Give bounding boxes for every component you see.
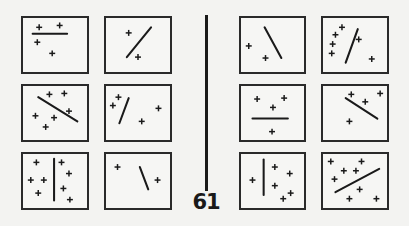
plus-icon: [156, 105, 162, 111]
line-segment: [38, 97, 77, 121]
plus-icon: [269, 129, 275, 135]
plus-icon: [339, 24, 345, 30]
plus-icon: [288, 190, 294, 196]
plus-icon: [328, 158, 334, 164]
plus-icon: [155, 177, 161, 183]
plus-icon: [60, 185, 66, 191]
plus-icon: [66, 171, 72, 177]
panel-drawing: [241, 86, 304, 140]
panel-drawing: [106, 86, 170, 140]
plus-icon: [329, 50, 335, 56]
plus-icon: [49, 50, 55, 56]
plus-icon: [353, 168, 359, 174]
plus-icon: [126, 30, 132, 36]
plus-icon: [34, 39, 40, 45]
line-segment: [140, 167, 148, 189]
plus-icon: [287, 171, 293, 177]
plus-icon: [59, 159, 65, 165]
plus-icon: [330, 41, 336, 47]
panel-left-r1-c1: [104, 84, 172, 142]
plus-icon: [33, 159, 39, 165]
plus-icon: [41, 177, 47, 183]
panel-left-r0-c0: [21, 16, 89, 74]
panel-drawing: [241, 18, 304, 72]
plus-icon: [66, 108, 72, 114]
plus-icon: [272, 164, 278, 170]
panel-drawing: [106, 18, 170, 72]
panel-left-r1-c0: [21, 84, 89, 142]
panel-drawing: [323, 86, 387, 140]
plus-icon: [281, 95, 287, 101]
panel-drawing: [23, 18, 87, 72]
plus-icon: [270, 104, 276, 110]
panel-left-r2-c0: [21, 152, 89, 210]
panel-right-r1-c1: [321, 84, 389, 142]
plus-icon: [362, 99, 368, 105]
panel-drawing: [323, 18, 387, 72]
plus-icon: [356, 36, 362, 42]
plus-icon: [46, 91, 52, 97]
bongard-figure: 61: [0, 0, 409, 226]
plus-icon: [61, 90, 67, 96]
line-segment: [346, 98, 378, 118]
panel-right-r0-c1: [321, 16, 389, 74]
plus-icon: [254, 96, 260, 102]
plus-icon: [263, 55, 269, 61]
plus-icon: [359, 158, 365, 164]
panel-right-r2-c1: [321, 152, 389, 210]
plus-icon: [348, 91, 354, 97]
plus-icon: [110, 103, 116, 109]
plus-icon: [346, 196, 352, 202]
panel-left-r0-c1: [104, 16, 172, 74]
plus-icon: [346, 118, 352, 124]
panel-drawing: [106, 154, 170, 208]
panel-right-r0-c0: [239, 16, 306, 74]
plus-icon: [250, 177, 256, 183]
panel-drawing: [241, 154, 304, 208]
line-segment: [265, 27, 282, 58]
plus-icon: [377, 90, 383, 96]
plus-icon: [369, 56, 375, 62]
panel-left-r2-c1: [104, 152, 172, 210]
plus-icon: [51, 115, 57, 121]
panel-right-r2-c0: [239, 152, 306, 210]
line-segment: [127, 27, 151, 57]
plus-icon: [332, 176, 338, 182]
plus-icon: [32, 113, 38, 119]
plus-icon: [246, 43, 252, 49]
plus-icon: [115, 94, 121, 100]
center-divider-line: [205, 15, 208, 191]
panel-drawing: [23, 86, 87, 140]
plus-icon: [67, 197, 73, 203]
line-segment: [119, 98, 128, 123]
panel-drawing: [323, 154, 387, 208]
plus-icon: [43, 124, 49, 130]
plus-icon: [139, 118, 145, 124]
problem-number: 61: [191, 190, 221, 214]
plus-icon: [272, 183, 278, 189]
plus-icon: [341, 168, 347, 174]
panel-right-r1-c0: [239, 84, 306, 142]
line-segment: [346, 29, 358, 63]
plus-icon: [332, 32, 338, 38]
plus-icon: [115, 164, 121, 170]
plus-icon: [357, 186, 363, 192]
plus-icon: [373, 196, 379, 202]
plus-icon: [57, 22, 63, 28]
plus-icon: [135, 54, 141, 60]
plus-icon: [35, 190, 41, 196]
plus-icon: [36, 24, 42, 30]
plus-icon: [280, 196, 286, 202]
plus-icon: [28, 177, 34, 183]
panel-drawing: [23, 154, 87, 208]
